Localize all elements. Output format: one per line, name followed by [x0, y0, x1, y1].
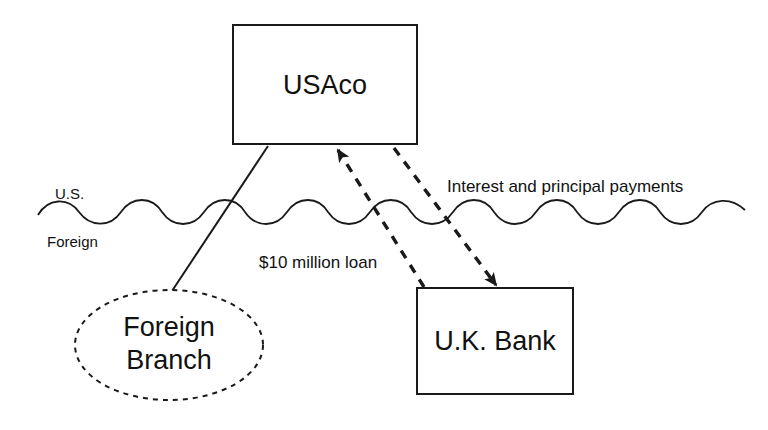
border-label-foreign: Foreign [47, 233, 98, 250]
us-foreign-border-wave [38, 200, 745, 224]
edge-label-loan: $10 million loan [259, 253, 377, 272]
diagram-canvas: U.S. Foreign USAco U.K. Bank Foreign Bra… [0, 0, 768, 430]
edge-label-repayment: Interest and principal payments [447, 177, 683, 196]
connector-repayment-arrow [394, 148, 496, 285]
node-uk-bank-label: U.K. Bank [434, 326, 556, 356]
diagram-svg: U.S. Foreign USAco U.K. Bank Foreign Bra… [0, 0, 768, 430]
node-usaco-label: USAco [283, 70, 367, 100]
node-foreign-branch-label-line2: Branch [126, 345, 212, 375]
border-label-us: U.S. [55, 185, 84, 202]
node-foreign-branch-label-line1: Foreign [123, 312, 215, 342]
